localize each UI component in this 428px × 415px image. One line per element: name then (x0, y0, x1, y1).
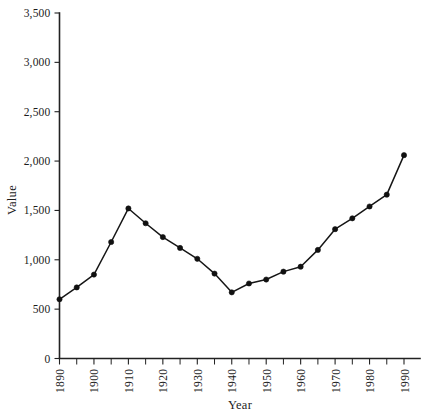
y-tick-label: 1,500 (24, 204, 51, 217)
y-tick-label: 500 (33, 303, 51, 315)
y-tick-label: 1,000 (24, 254, 51, 267)
data-point-marker (126, 206, 131, 211)
data-point-marker (177, 245, 182, 250)
y-tick-label: 0 (45, 353, 51, 365)
x-tick-label: 1960 (295, 369, 307, 394)
x-tick-label: 1890 (54, 369, 66, 394)
data-point-marker (91, 272, 96, 277)
data-point-marker (298, 264, 303, 269)
y-tick-label: 2,500 (24, 106, 51, 119)
data-point-marker (143, 221, 148, 226)
x-tick-label: 1950 (261, 369, 273, 394)
data-point-marker (333, 227, 338, 232)
x-tick-label: 1930 (192, 369, 204, 394)
data-point-marker (315, 247, 320, 252)
chart-figure: 05001,0001,5002,0002,5003,0003,500 18901… (0, 0, 428, 415)
data-point-marker (212, 271, 217, 276)
data-point-marker (281, 269, 286, 274)
data-point-marker (384, 192, 389, 197)
data-series-markers (57, 153, 407, 302)
x-tick-label: 1990 (399, 369, 411, 394)
x-tick-label: 1900 (88, 369, 100, 394)
data-point-marker (264, 277, 269, 282)
data-point-marker (57, 297, 62, 302)
y-axis-title: Value (5, 185, 19, 215)
data-point-marker (367, 204, 372, 209)
data-point-marker (350, 216, 355, 221)
data-point-marker (74, 285, 79, 290)
y-tick-label: 3,500 (24, 7, 51, 20)
x-tick-label: 1970 (330, 369, 342, 394)
x-tick-label: 1920 (157, 369, 169, 394)
y-tick-label: 2,000 (24, 155, 51, 168)
x-tick-label: 1940 (226, 369, 238, 394)
x-axis-title: Year (228, 398, 253, 412)
x-tick-label: 1910 (123, 369, 135, 394)
data-point-marker (401, 153, 406, 158)
data-point-marker (160, 234, 165, 239)
y-tick-labels: 05001,0001,5002,0002,5003,0003,500 (24, 7, 51, 365)
data-series-line (60, 155, 405, 299)
data-point-marker (246, 281, 251, 286)
x-tick-labels: 1890190019101920193019401950196019701980… (54, 369, 411, 394)
x-tick-label: 1980 (364, 369, 376, 394)
plot-area: 05001,0001,5002,0002,5003,0003,500 18901… (5, 7, 420, 412)
line-chart: 05001,0001,5002,0002,5003,0003,500 18901… (0, 0, 428, 415)
data-point-marker (229, 290, 234, 295)
y-tick-label: 3,000 (24, 56, 51, 69)
data-point-marker (109, 239, 114, 244)
data-point-marker (195, 256, 200, 261)
